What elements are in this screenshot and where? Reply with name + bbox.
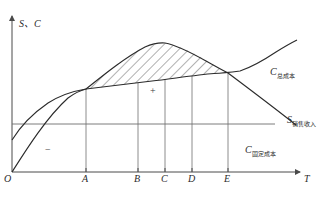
fixed-cost-label: C固定成本 xyxy=(245,145,276,157)
x-tick-label-e: E xyxy=(224,174,230,184)
x-tick-label-d: D xyxy=(188,174,195,184)
sales-revenue-label: S销售收入 xyxy=(287,115,316,127)
fixed-cost-label-sub: 固定成本 xyxy=(252,150,276,157)
total-cost-label-base: C xyxy=(270,66,277,77)
x-axis-label: T xyxy=(304,174,310,184)
x-tick-label-b: B xyxy=(134,174,140,184)
cost-revenue-chart: S、C O A B C D E T C总成本 S销售收入 C固定成本 − + xyxy=(0,0,330,197)
loss-region-sign: − xyxy=(45,145,51,155)
profit-hatched-region xyxy=(86,43,228,89)
drop-lines-group xyxy=(86,73,228,172)
sales-revenue-label-sub: 销售收入 xyxy=(292,120,316,127)
chart-canvas xyxy=(0,0,330,197)
total-cost-label: C总成本 xyxy=(270,67,295,79)
origin-label: O xyxy=(4,174,11,184)
y-axis-label: S、C xyxy=(19,19,41,29)
x-axis-ticks xyxy=(86,168,228,172)
x-tick-label-c: C xyxy=(161,174,168,184)
fixed-cost-label-base: C xyxy=(245,144,252,155)
profit-region-sign: + xyxy=(150,86,156,96)
total-cost-label-sub: 总成本 xyxy=(277,72,295,79)
x-tick-label-a: A xyxy=(82,174,88,184)
